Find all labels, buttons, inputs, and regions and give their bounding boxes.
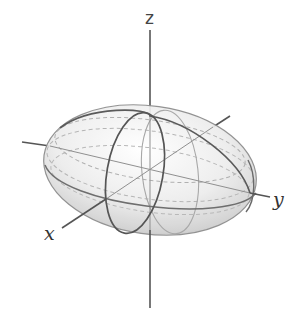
y-axis-label: y — [272, 188, 284, 210]
ellipsoid-figure: z y x — [0, 0, 300, 313]
ellipsoid-diagram: z y x — [0, 0, 300, 313]
z-axis-label: z — [145, 8, 154, 28]
y-axis-negative — [22, 142, 50, 146]
x-axis-label: x — [44, 222, 55, 244]
